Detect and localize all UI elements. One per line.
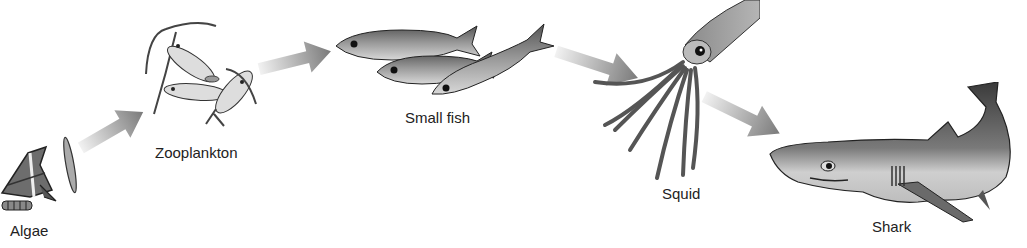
label-small-fish: Small fish xyxy=(405,109,470,126)
label-zooplankton: Zooplankton xyxy=(155,144,238,161)
arrow-zooplankton-to-small-fish xyxy=(256,38,336,83)
label-shark: Shark xyxy=(872,218,911,235)
shark-illustration xyxy=(768,82,1027,232)
label-squid: Squid xyxy=(662,185,700,202)
label-algae: Algae xyxy=(10,222,48,239)
zooplankton-illustration xyxy=(136,14,266,129)
food-chain-diagram: Algae Zooplankton xyxy=(0,0,1027,248)
small-fish-illustration xyxy=(332,16,557,101)
